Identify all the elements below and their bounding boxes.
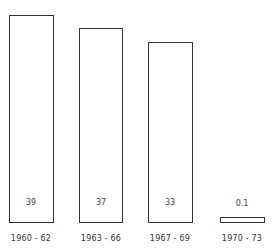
bar-1960-62 [9,15,54,223]
value-label-1967-69: 33 [140,198,200,207]
bar-1970-73 [220,217,265,223]
value-label-1960-62: 39 [1,198,61,207]
bar-1967-69 [148,42,193,223]
category-label-1967-69: 1967 - 69 [135,234,205,243]
bar-chart: 39 1960 - 62 37 1963 - 66 33 1967 - 69 0… [0,0,278,250]
category-label-1963-66: 1963 - 66 [66,234,136,243]
bar-1963-66 [79,28,123,223]
value-label-1963-66: 37 [71,198,131,207]
category-label-1970-73: 1970 - 73 [207,234,277,243]
value-label-1970-73: 0.1 [212,199,272,208]
category-label-1960-62: 1960 - 62 [0,234,66,243]
